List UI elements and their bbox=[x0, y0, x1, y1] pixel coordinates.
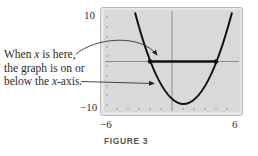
annotation-line-1: When x is here, bbox=[4, 48, 84, 62]
x-min-label: −6 bbox=[100, 118, 112, 130]
y-max-label: 10 bbox=[84, 9, 95, 21]
y-min-label: −10 bbox=[80, 101, 97, 113]
annotation-line-2: the graph is on or bbox=[4, 62, 84, 76]
annotation-line-3: below the x-axis. bbox=[4, 75, 84, 89]
x-max-label: 6 bbox=[232, 118, 238, 130]
left-root-dot bbox=[148, 59, 153, 64]
figure-caption: FIGURE 3 bbox=[104, 136, 148, 146]
annotation-text: When x is here, the graph is on or below… bbox=[4, 48, 84, 89]
right-root-dot bbox=[214, 59, 219, 64]
